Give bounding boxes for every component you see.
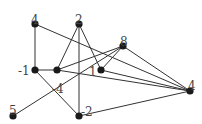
graph-nodes <box>9 20 193 119</box>
node-label: -4 <box>52 82 64 96</box>
node-label: 4 <box>31 13 39 27</box>
edge-n_2-n_1 <box>79 24 101 70</box>
node-label: 4 <box>188 79 196 93</box>
node-label: 2 <box>75 13 83 27</box>
node-n_m1 <box>31 66 38 73</box>
node-label: -2 <box>81 105 93 119</box>
node-label: -1 <box>18 64 30 78</box>
node-label: 8 <box>120 35 128 49</box>
node-label: 5 <box>9 104 17 118</box>
edge-n_m4-n_r4 <box>57 70 190 91</box>
edge-n_m2-n_r4 <box>79 91 190 116</box>
graph-labels: 428-1-4145-2 <box>9 13 196 119</box>
edge-n_1-n_r4 <box>101 70 190 91</box>
node-label: 1 <box>89 65 97 79</box>
graph-diagram: 428-1-4145-2 <box>0 0 202 124</box>
edge-n_5-n_8 <box>13 46 123 116</box>
node-n_m4 <box>53 66 60 73</box>
edge-n_8-n_r4 <box>123 46 190 91</box>
node-n_1 <box>97 66 104 73</box>
